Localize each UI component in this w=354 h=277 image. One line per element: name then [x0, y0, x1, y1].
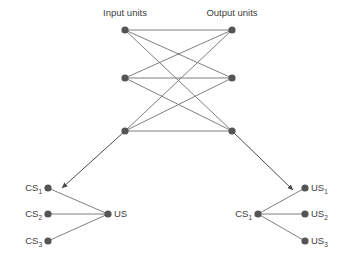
right-cluster-edge-group: [258, 188, 305, 241]
node-label: US1: [311, 182, 328, 195]
left-cluster-edge-group: [48, 188, 108, 241]
mapping-arrow-group: [62, 131, 293, 190]
left-cluster-edge: [48, 214, 108, 241]
node-label: US: [114, 208, 127, 219]
us-node[interactable]: [301, 237, 308, 244]
cluster-label-group: CS1CS2CS3USUS1US2US3CS1: [25, 182, 328, 248]
diagram-canvas: Input units Output units CS1CS2CS3USUS1U…: [0, 0, 354, 277]
input-unit-node[interactable]: [121, 127, 128, 134]
left-cluster-edge: [48, 188, 108, 214]
arrow-right: [232, 131, 293, 190]
us-hub-node[interactable]: [104, 210, 111, 217]
right-cluster-edge: [258, 214, 305, 241]
output-unit-node[interactable]: [228, 74, 235, 81]
input-unit-node[interactable]: [121, 74, 128, 81]
node-label-subscript: 1: [324, 188, 328, 195]
output-units-header: Output units: [206, 7, 257, 18]
cs-node[interactable]: [44, 184, 51, 191]
node-label-subscript: 3: [324, 241, 328, 248]
node-label-subscript: 2: [38, 214, 42, 221]
node-label-subscript: 3: [38, 241, 42, 248]
cs-hub-node[interactable]: [254, 210, 261, 217]
cluster-node-group: [44, 184, 308, 244]
us-node[interactable]: [301, 184, 308, 191]
node-label: CS1: [25, 182, 42, 195]
node-label-subscript: 2: [324, 214, 328, 221]
node-label: US3: [311, 235, 328, 248]
output-unit-node[interactable]: [228, 127, 235, 134]
node-label: CS1: [235, 208, 252, 221]
right-cluster-edge: [258, 188, 305, 214]
node-label-subscript: 1: [248, 214, 252, 221]
node-label: CS3: [25, 235, 42, 248]
node-label-subscript: 1: [38, 188, 42, 195]
node-label: CS2: [25, 208, 42, 221]
input-units-header: Input units: [103, 7, 147, 18]
input-unit-node[interactable]: [121, 26, 128, 33]
output-unit-node[interactable]: [228, 26, 235, 33]
cs-node[interactable]: [44, 210, 51, 217]
network-edge-group: [125, 30, 232, 131]
network-diagram: Input units Output units CS1CS2CS3USUS1U…: [0, 0, 354, 277]
arrow-left: [62, 131, 125, 188]
node-label: US2: [311, 208, 328, 221]
cs-node[interactable]: [44, 237, 51, 244]
us-node[interactable]: [301, 210, 308, 217]
